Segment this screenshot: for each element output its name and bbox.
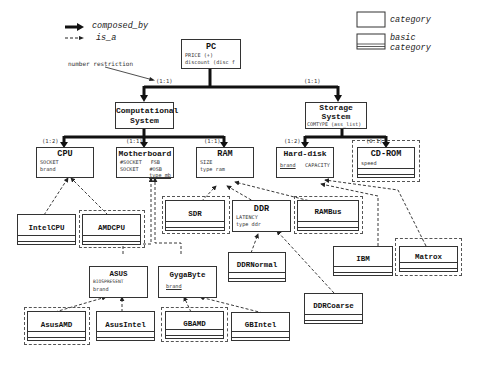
node-asusamd-title: AsusAMD <box>28 320 85 330</box>
node-gbamd[interactable]: GBAMD <box>165 311 224 339</box>
node-harddisk-attr-capacity: CAPACITY <box>305 162 330 169</box>
node-asus-title: ASUS <box>90 269 147 279</box>
node-ddr-title: DDR <box>233 204 290 214</box>
cardinality-pc-computational: (1:1) <box>156 78 173 84</box>
number-restriction-annotation: number restriction <box>68 60 133 67</box>
node-sdr-title: SDR <box>166 209 224 219</box>
cardinality-harddisk: (1:2) <box>284 138 301 144</box>
node-storage-attr-comtype: COMTYPE (ass_list) <box>306 121 366 128</box>
node-gygabyte-attr-brand: brand <box>166 283 182 289</box>
node-asusintel[interactable]: AsusIntel <box>96 311 155 341</box>
node-computational-title-2: System <box>116 116 173 126</box>
node-gygabyte[interactable]: GygaByte brand <box>158 266 217 298</box>
node-cpu-attr-brand: brand <box>40 166 56 172</box>
node-motherboard-title: Motherboard <box>117 149 173 159</box>
cardinality-motherboard: (1:1) <box>126 138 143 144</box>
node-asus-attr-brand: brand <box>93 286 109 292</box>
node-cdrom[interactable]: CD-ROM speed <box>357 147 415 178</box>
node-ibm[interactable]: IBM <box>333 246 393 276</box>
node-motherboard-attr-fsb: FSB <box>151 159 160 166</box>
legend-category-swatch <box>357 12 385 27</box>
node-ram-attr-size: SIZE <box>197 159 253 166</box>
node-ram-attr-type-ram: type_ram <box>200 166 225 172</box>
legend-composed-by-label: composed_by <box>92 21 148 31</box>
legend-is-a-label: is_a <box>96 33 116 43</box>
node-pc-attr-discount: discount (disc_f <box>182 59 240 66</box>
legend-category-label: category <box>390 15 431 25</box>
node-ddr-attr-latency: LATENCY <box>233 214 290 221</box>
node-amdcpu-title: AMDCPU <box>83 223 140 233</box>
node-asusintel-title: AsusIntel <box>97 320 154 330</box>
node-storage-title-2: System <box>306 113 366 122</box>
node-storage-system[interactable]: Storage System COMTYPE (ass_list) <box>305 102 367 129</box>
node-ddrnormal[interactable]: DDRNormal <box>228 252 286 282</box>
node-harddisk-title: Hard-disk <box>277 149 333 159</box>
node-ddrcoarse-title: DDRCoarse <box>305 301 362 311</box>
node-ddrnormal-title: DDRNormal <box>229 260 285 270</box>
cardinality-ram: (1:1) <box>204 138 221 144</box>
node-harddisk[interactable]: Hard-disk brand CAPACITY <box>276 147 334 178</box>
node-cdrom-title: CD-ROM <box>358 149 414 159</box>
node-motherboard-attr-nosb: #OSB <box>150 166 163 173</box>
legend-basic-category-label-2: category <box>390 43 431 53</box>
node-asus[interactable]: ASUS BIOSPRESENT brand <box>89 266 148 298</box>
number-restriction-pointer <box>105 67 153 80</box>
node-intelcpu[interactable]: IntelCPU <box>17 214 76 245</box>
node-ddr[interactable]: DDR LATENCY type_ddr <box>232 200 291 232</box>
node-ddrcoarse[interactable]: DDRCoarse <box>304 293 363 324</box>
node-ddr-attr-type-ddr: type_ddr <box>236 221 261 227</box>
node-matrox[interactable]: Matrox <box>399 246 458 272</box>
node-computational-title-1: Computational <box>116 106 173 116</box>
node-motherboard-attr-type-mb: type_mb <box>149 172 171 178</box>
node-cdrom-attr-speed: speed <box>358 160 414 167</box>
cardinality-pc-storage: (1:1) <box>304 78 321 84</box>
node-motherboard[interactable]: Motherboard #SOCKET FSB SOCKET #OSB type… <box>116 147 174 178</box>
node-ram[interactable]: RAM SIZE type_ram <box>196 147 254 178</box>
node-motherboard-attr-nsocket: #SOCKET <box>120 159 142 166</box>
node-intelcpu-title: IntelCPU <box>18 223 75 233</box>
cardinality-cpu: (1:2) <box>42 138 59 144</box>
node-gbintel-title: GBIntel <box>232 320 289 330</box>
node-ibm-title: IBM <box>334 254 392 264</box>
node-computational-system[interactable]: Computational System <box>115 102 174 129</box>
node-gbintel[interactable]: GBIntel <box>231 312 290 341</box>
node-cpu-title: CPU <box>37 149 93 159</box>
legend-basic-category-swatch <box>357 34 385 49</box>
node-cpu-attr-socket: SOCKET <box>37 159 93 166</box>
node-rambus-title: RAMBus <box>298 207 358 217</box>
node-rambus[interactable]: RAMBus <box>297 200 359 231</box>
node-asus-attr-biospresent: BIOSPRESENT <box>90 279 147 286</box>
node-gygabyte-title: GygaByte <box>159 270 216 280</box>
legend-composed-by-arrow <box>65 23 84 31</box>
legend-basic-category-label-1: basic <box>390 33 416 43</box>
node-harddisk-attr-brand: brand <box>280 162 296 169</box>
node-asusamd[interactable]: AsusAMD <box>27 311 86 341</box>
node-pc-attr-price: PRICE (+) <box>182 52 240 59</box>
node-gbamd-title: GBAMD <box>166 319 223 329</box>
node-motherboard-attr-socket: SOCKET <box>120 166 139 173</box>
node-cpu[interactable]: CPU SOCKET brand <box>36 147 94 178</box>
node-pc-title: PC <box>182 42 240 52</box>
node-ram-title: RAM <box>197 149 253 159</box>
node-amdcpu[interactable]: AMDCPU <box>82 214 141 245</box>
node-matrox-title: Matrox <box>400 252 457 262</box>
node-pc[interactable]: PC PRICE (+) discount (disc_f <box>181 39 241 69</box>
legend-is-a-arrow <box>65 36 84 40</box>
node-sdr[interactable]: SDR <box>165 200 225 231</box>
